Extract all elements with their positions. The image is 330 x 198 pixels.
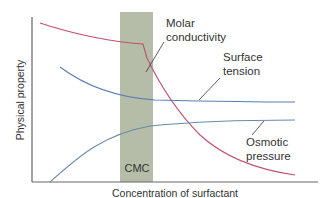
leader-osmotic [252, 121, 264, 135]
label-osmotic-pressure: Osmotic pressure [246, 135, 291, 163]
leader-surface [199, 78, 220, 100]
label-osmotic-line2: pressure [246, 149, 291, 163]
cmc-label: CMC [124, 162, 150, 174]
x-axis-title: Concentration of surfactant [112, 187, 238, 198]
y-axis-title: Physical property [14, 60, 26, 141]
cmc-band [120, 12, 153, 182]
label-molar-line1: Molar [166, 16, 226, 30]
label-surface-tension: Surface tension [223, 50, 263, 78]
label-surface-line2: tension [223, 64, 263, 78]
label-molar-line2: conductivity [166, 30, 226, 44]
label-surface-line1: Surface [223, 50, 263, 64]
label-osmotic-line1: Osmotic [246, 135, 291, 149]
label-molar-conductivity: Molar conductivity [166, 16, 226, 44]
chart-canvas [0, 0, 330, 198]
